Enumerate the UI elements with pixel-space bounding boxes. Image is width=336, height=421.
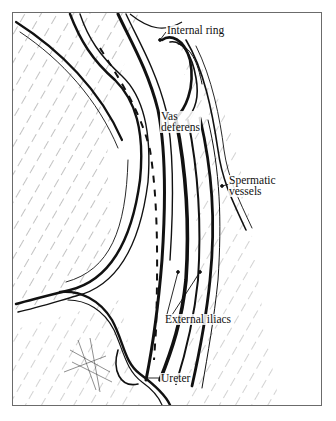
label-text: External iliacs bbox=[165, 313, 231, 325]
label-external-iliacs: External iliacs bbox=[164, 314, 232, 325]
label-text: Ureter bbox=[161, 372, 190, 384]
anatomical-figure: Internal ring Vas deferens Spermatic ves… bbox=[0, 0, 336, 421]
anatomy-drawing bbox=[0, 0, 336, 421]
hatching-left bbox=[13, 13, 150, 405]
label-text: deferens bbox=[161, 122, 200, 133]
label-text: Internal ring bbox=[167, 24, 224, 36]
label-vas-deferens: Vas deferens bbox=[160, 111, 201, 133]
label-spermatic-vessels: Spermatic vessels bbox=[228, 175, 277, 197]
label-internal-ring: Internal ring bbox=[166, 25, 225, 36]
label-text: vessels bbox=[229, 186, 276, 197]
label-ureter: Ureter bbox=[160, 373, 191, 384]
hatching-right bbox=[180, 40, 280, 405]
